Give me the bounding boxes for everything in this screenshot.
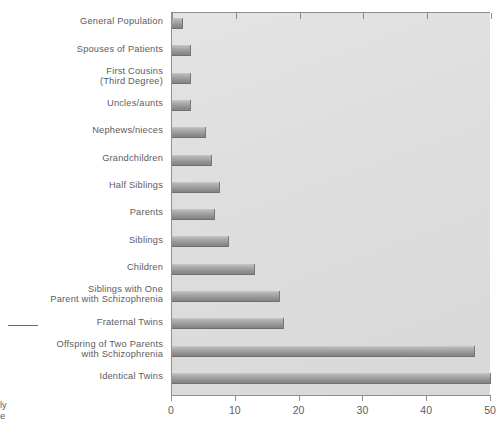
- plot-area: [171, 12, 490, 395]
- bar: [172, 236, 229, 247]
- category-label: Children: [0, 262, 163, 273]
- bar: [172, 100, 191, 111]
- x-tick-label: 50: [470, 404, 500, 416]
- x-tick: [426, 395, 427, 401]
- category-label: General Population: [0, 16, 163, 27]
- category-label: Half Siblings: [0, 180, 163, 191]
- bar: [172, 182, 220, 193]
- category-label: Uncles/aunts: [0, 98, 163, 109]
- category-label: Siblings: [0, 235, 163, 246]
- category-label: Spouses of Patients: [0, 44, 163, 55]
- x-tick: [171, 395, 172, 401]
- bar: [172, 291, 280, 302]
- x-tick: [299, 395, 300, 401]
- x-axis-line: [171, 395, 490, 396]
- bars-container: [172, 13, 490, 395]
- category-label: Offspring of Two Parents with Schizophre…: [0, 339, 163, 360]
- bar: [172, 127, 206, 138]
- bar: [172, 45, 191, 56]
- x-tick-label: 10: [215, 404, 255, 416]
- x-tick: [235, 395, 236, 401]
- x-tick: [490, 395, 491, 401]
- x-tick-top: [363, 13, 364, 19]
- bar: [172, 18, 183, 29]
- x-axis: 01020304050: [171, 395, 490, 441]
- cropped-caption-fragment: ly e: [0, 400, 16, 422]
- category-label: Grandchildren: [0, 153, 163, 164]
- bar: [172, 209, 215, 220]
- category-label: First Cousins (Third Degree): [0, 66, 163, 87]
- x-tick-label: 0: [151, 404, 191, 416]
- category-label: Siblings with One Parent with Schizophre…: [0, 284, 163, 305]
- category-axis-labels: General PopulationSpouses of PatientsFir…: [0, 12, 167, 395]
- x-tick-label: 40: [406, 404, 446, 416]
- bar: [172, 318, 284, 329]
- x-tick-top: [236, 13, 237, 19]
- x-tick-label: 20: [279, 404, 319, 416]
- chart-figure: General PopulationSpouses of PatientsFir…: [0, 0, 500, 441]
- x-tick-top: [172, 13, 173, 19]
- x-tick-top: [300, 13, 301, 19]
- bar: [172, 264, 255, 275]
- bar: [172, 373, 491, 384]
- bar: [172, 346, 475, 357]
- bar: [172, 73, 191, 84]
- bar: [172, 155, 212, 166]
- x-tick-top: [427, 13, 428, 19]
- x-tick-top: [491, 13, 492, 19]
- x-tick-label: 30: [342, 404, 382, 416]
- x-tick: [362, 395, 363, 401]
- category-label: Nephews/nieces: [0, 125, 163, 136]
- category-label: Identical Twins: [0, 371, 163, 382]
- cropped-title-fragment: [95, 0, 305, 4]
- page-rule-fragment: [8, 325, 38, 326]
- category-label: Parents: [0, 207, 163, 218]
